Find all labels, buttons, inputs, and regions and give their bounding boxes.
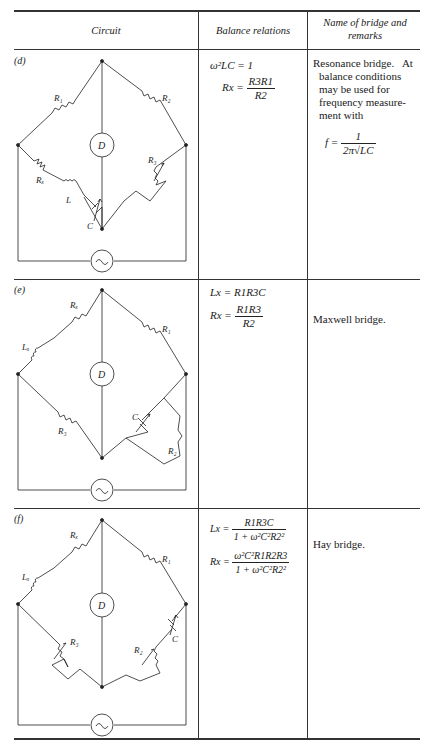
svg-text:R₂: R₂ [133,645,143,655]
fraction-numerator: ω²C²R1R2R3 [232,549,289,563]
header-bottom-rule [14,49,420,50]
remark-d-line: frequency measure- [313,96,423,109]
remark-d-line: ment with [313,109,423,122]
svg-text:R₁: R₁ [161,554,171,564]
svg-text:R₃: R₃ [147,155,157,165]
remark-e: Maxwell bridge. [313,313,386,326]
fraction-denominator: R2 [235,317,263,330]
fraction: R3R1 R2 [247,75,275,102]
relation-f-1: Lx = R1R3C 1 + ω²C²R2² [210,516,286,543]
header-balance-relations: Balance relations [199,24,307,37]
header-name-remarks: Name of bridge and remarks [310,16,420,42]
table-bottom-rule [14,738,420,740]
fraction: ω²C²R1R2R3 1 + ω²C²R2² [232,549,289,576]
fraction-denominator: R2 [247,89,275,102]
svg-text:Rₓ: Rₓ [69,530,78,540]
relation-f-1-lhs: Lx = [210,523,229,534]
fraction-denominator: 2π√LC [341,144,376,157]
fraction: R1R3 R2 [235,303,263,330]
row-label-e: (e) [14,284,26,296]
fraction: 1 2π√LC [341,130,376,157]
svg-text:L: L [65,195,71,205]
remark-d-title: Resonance bridge. At [313,57,423,70]
svg-text:R₃: R₃ [57,426,67,436]
svg-text:R₂: R₂ [161,93,171,103]
circuit-diagram-f: (f) Lₓ Rₓ R₁ D R₃ C R₂ [14,509,199,737]
svg-text:C: C [172,634,179,644]
fraction-numerator: R3R1 [247,75,275,89]
fraction-denominator: 1 + ω²C²R2² [232,530,287,543]
fraction-denominator: 1 + ω²C²R2² [232,563,289,576]
svg-text:R₂: R₂ [167,446,177,456]
svg-text:Rₓ: Rₓ [69,300,78,310]
relation-d-2-lhs: Rx = [222,81,244,93]
relation-d-2: Rx = R3R1 R2 [222,75,275,102]
resonance-formula: f = 1 2π√LC [313,130,423,157]
circuit-diagram-d: (d) R₁ R₂ D Rₓ L C R₃ [14,51,199,279]
remark-f: Hay bridge. [313,538,365,551]
svg-text:Lₓ: Lₓ [21,572,30,582]
relation-e-1: Lx = R1R3C [210,286,266,299]
row-label-d: (d) [14,55,26,67]
svg-text:R₁: R₁ [53,93,63,103]
relation-e-2: Rx = R1R3 R2 [210,303,263,330]
relation-f-2: Rx = ω²C²R1R2R3 1 + ω²C²R2² [210,549,289,576]
remark-d: Resonance bridge. At balance conditions … [313,57,423,157]
row-label-f: (f) [14,513,24,525]
fraction: R1R3C 1 + ω²C²R2² [232,516,287,543]
remark-d-line: balance conditions [313,70,423,83]
fraction-numerator: R1R3C [232,516,287,530]
column-divider-2 [307,10,308,738]
svg-text:D: D [97,140,106,151]
svg-text:R₃: R₃ [69,637,79,647]
svg-text:D: D [97,600,106,611]
relation-f-2-lhs: Rx = [210,556,230,567]
circuit-diagram-e: (e) Lₓ Rₓ R₁ D R₃ C R₂ [14,280,199,508]
fraction-numerator: 1 [341,130,376,144]
remark-d-line: may be used for [313,83,423,96]
svg-text:D: D [97,369,106,380]
relation-d-1: ω²LC = 1 [210,59,253,72]
svg-text:Rₓ: Rₓ [35,175,44,185]
svg-text:C: C [87,221,94,231]
table-top-rule [14,10,420,12]
formula-lhs: f = [325,136,338,148]
svg-text:C: C [132,412,139,422]
fraction-numerator: R1R3 [235,303,263,317]
svg-text:Lₓ: Lₓ [21,342,30,352]
relation-e-2-lhs: Rx = [210,309,232,321]
svg-text:R₁: R₁ [161,324,171,334]
header-circuit: Circuit [14,24,198,37]
